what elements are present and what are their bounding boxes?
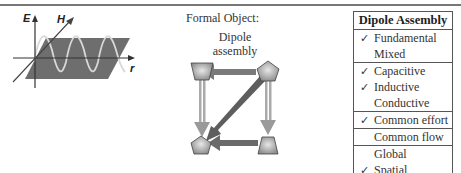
row-label: Fundamental (374, 30, 453, 47)
node-trapezoid-top-left (191, 63, 213, 80)
table-header: Dipole Assembly (354, 12, 453, 30)
check-icon: ✓ (354, 162, 375, 173)
caption-line-2: assembly (195, 44, 275, 58)
table-row: ✓Common effort (354, 112, 453, 129)
dipole-assembly-diagram (188, 58, 288, 158)
row-label: Inductive (374, 79, 453, 95)
row-label: Capacitive (374, 63, 453, 80)
dipole-assembly-table: Dipole Assembly ✓Fundamental Mixed ✓Capa… (353, 11, 453, 173)
table-row: Common flow (354, 129, 453, 146)
table-row: ✓Fundamental (354, 30, 453, 47)
arrow-right (260, 80, 276, 135)
node-pentagon-top-right (257, 61, 279, 81)
table-row: Global (354, 146, 453, 163)
row-label: Conductive (374, 95, 453, 112)
table-row: ✓Inductive (354, 79, 453, 95)
check-icon (354, 95, 375, 112)
check-icon (354, 129, 375, 146)
row-label: Mixed (374, 46, 453, 63)
row-label: Global (374, 146, 453, 163)
top-rule (0, 4, 461, 6)
check-icon: ✓ (354, 112, 375, 129)
check-icon (354, 46, 375, 63)
check-icon: ✓ (354, 79, 375, 95)
e-axis-arrow-icon (32, 15, 38, 22)
table-row: ✓Spatial (354, 162, 453, 173)
check-icon (354, 146, 375, 163)
r-axis-arrow-icon (128, 55, 135, 61)
arrow-bottom (208, 135, 258, 151)
arrow-left (194, 80, 210, 137)
table-row: Conductive (354, 95, 453, 112)
arrow-diagonal (206, 75, 266, 141)
row-label: Common effort (374, 112, 453, 129)
row-label: Common flow (374, 129, 453, 146)
node-trapezoid-bottom-right (258, 137, 278, 154)
h-axis-label: H (57, 13, 66, 25)
caption-line-1: Dipole (195, 30, 275, 44)
row-label: Spatial (374, 162, 453, 173)
table-row: Mixed (354, 46, 453, 63)
formal-object-label: Formal Object: (186, 11, 259, 26)
check-icon: ✓ (354, 63, 375, 80)
table-row: ✓Capacitive (354, 63, 453, 80)
check-icon: ✓ (354, 30, 375, 47)
em-wave-figure: E H r (8, 10, 143, 95)
e-axis-label: E (23, 12, 31, 24)
dipole-assembly-caption: Dipole assembly (195, 30, 275, 58)
r-axis-label: r (130, 62, 135, 74)
